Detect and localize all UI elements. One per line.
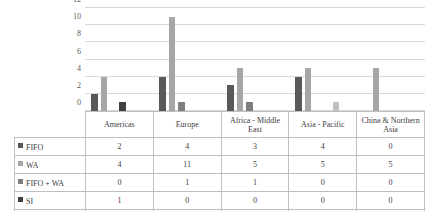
table-cell: 1	[289, 210, 357, 212]
table-cell: 0	[153, 192, 221, 210]
bar	[91, 94, 98, 111]
table-row: FIFO + WA + SI00010	[15, 210, 425, 212]
table-cell: 1	[86, 192, 154, 210]
bar-chart-with-data-table: 024681012 AmericasEuropeAfrica - Middle …	[0, 0, 434, 211]
legend-entry: SI	[15, 192, 86, 210]
bar-slot	[90, 8, 98, 111]
table-cell: 0	[153, 210, 221, 212]
table-cell: 1	[153, 174, 221, 192]
legend-entry: FIFO	[15, 138, 86, 156]
y-axis-tick: 2	[51, 82, 81, 90]
legend-label: WA	[26, 160, 38, 169]
y-axis-tick: 0	[51, 99, 81, 107]
table-cell: 2	[86, 138, 154, 156]
bar-slot	[177, 8, 185, 111]
bar-slots	[153, 8, 221, 111]
bar-slot	[255, 8, 263, 111]
table-cell: 0	[357, 138, 425, 156]
bar	[227, 85, 234, 111]
table-cell: 0	[289, 174, 357, 192]
legend-entry: FIFO + WA	[15, 174, 86, 192]
bar-slot	[119, 8, 127, 111]
table-row: FIFO + WA01100	[15, 174, 425, 192]
bar	[305, 68, 312, 111]
bar-group	[221, 8, 289, 111]
bar	[169, 17, 176, 111]
bar	[101, 77, 108, 111]
table-cell: 3	[221, 138, 289, 156]
bar-slot	[168, 8, 176, 111]
y-axis-tick: 10	[51, 13, 81, 21]
legend-label: FIFO	[26, 142, 43, 151]
table-cell: 0	[289, 192, 357, 210]
bar-slots	[85, 8, 153, 111]
bar	[373, 68, 380, 111]
bar-slot	[264, 8, 272, 111]
bar-slot	[304, 8, 312, 111]
bar-slot	[294, 8, 302, 111]
bar	[119, 102, 126, 111]
legend-label: FIFO + WA	[26, 178, 64, 187]
bars-layer	[85, 8, 425, 111]
chart-data-table: AmericasEuropeAfrica - Middle EastAsia -…	[14, 111, 425, 211]
bar	[295, 77, 302, 111]
table-cell: 0	[86, 174, 154, 192]
legend-swatch-icon	[18, 143, 23, 148]
table-body: FIFO24340WA411555FIFO + WA01100SI10000FI…	[15, 138, 425, 212]
table-cell: 0	[86, 210, 154, 212]
bar-group	[153, 8, 221, 111]
legend-label: SI	[26, 196, 33, 205]
bar-slot	[128, 8, 136, 111]
table-cell: 0	[357, 192, 425, 210]
table-cell: 5	[289, 156, 357, 174]
bar	[246, 102, 253, 111]
bar-slots	[221, 8, 289, 111]
legend-entry: WA	[15, 156, 86, 174]
bar	[333, 102, 340, 111]
table-cell: 0	[357, 174, 425, 192]
legend-swatch-icon	[18, 197, 23, 202]
bar-slot	[313, 8, 321, 111]
y-axis-tick: 6	[51, 48, 81, 56]
table-column-header: Asia - Pacific	[289, 112, 357, 138]
table-cell: 5	[357, 156, 425, 174]
bar-group	[85, 8, 153, 111]
table-header: AmericasEuropeAfrica - Middle EastAsia -…	[15, 112, 425, 138]
bar-slot	[391, 8, 399, 111]
table-cell: 4	[289, 138, 357, 156]
bar	[159, 77, 166, 111]
bar-slots	[357, 8, 425, 111]
bar-slot	[245, 8, 253, 111]
table-cell: 1	[221, 174, 289, 192]
bar-slot	[158, 8, 166, 111]
bar-group	[289, 8, 357, 111]
bar-slot	[100, 8, 108, 111]
bar	[237, 68, 244, 111]
table-cell: 4	[86, 156, 154, 174]
table-cell: 11	[153, 156, 221, 174]
bar-slot	[381, 8, 389, 111]
bar-slots	[289, 8, 357, 111]
table-column-header: Europe	[153, 112, 221, 138]
y-axis-tick: 8	[51, 30, 81, 38]
legend-entry: FIFO + WA + SI	[15, 210, 86, 212]
table-row: WA411555	[15, 156, 425, 174]
legend-swatch-icon	[18, 161, 23, 166]
bar-slot	[362, 8, 370, 111]
legend-swatch-icon	[18, 179, 23, 184]
table-cell: 0	[357, 210, 425, 212]
y-axis-tick: 4	[51, 65, 81, 73]
table-column-header: Africa - Middle East	[221, 112, 289, 138]
y-axis-tick: 12	[51, 0, 81, 4]
table-cell: 4	[153, 138, 221, 156]
bar-slot	[372, 8, 380, 111]
table-corner-cell	[15, 112, 86, 138]
table-cell: 0	[221, 210, 289, 212]
table-column-header: Americas	[86, 112, 154, 138]
bar	[178, 102, 185, 111]
bar-slot	[109, 8, 117, 111]
bar-slot	[323, 8, 331, 111]
table-column-header: China & Northern Asia	[357, 112, 425, 138]
bar-slot	[236, 8, 244, 111]
table-header-row: AmericasEuropeAfrica - Middle EastAsia -…	[15, 112, 425, 138]
